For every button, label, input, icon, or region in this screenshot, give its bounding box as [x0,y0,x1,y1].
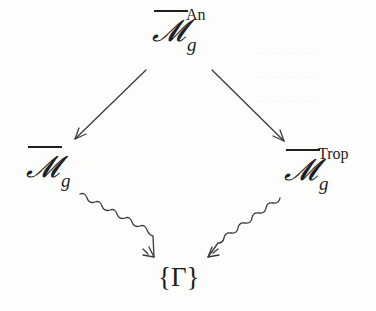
arrow-top-to-right [212,70,284,141]
squiggly-arrow-right-to-bottom [208,198,280,257]
diagram-arrows [0,0,376,311]
squiggly-arrow-left-to-bottom [80,194,154,258]
arrow-top-to-left [75,70,146,139]
